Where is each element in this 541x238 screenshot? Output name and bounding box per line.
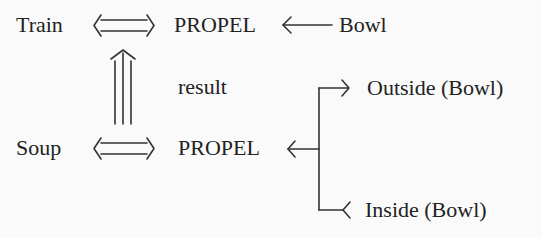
arrow-left-bowl-icon	[283, 17, 332, 33]
node-train: Train	[16, 14, 63, 36]
node-outside-bowl: Outside (Bowl)	[367, 77, 503, 99]
double-arrow-top-icon	[94, 15, 154, 36]
node-soup: Soup	[16, 137, 61, 159]
node-propel-bottom: PROPEL	[178, 137, 260, 159]
branch-bracket-icon	[288, 80, 350, 218]
node-bowl: Bowl	[339, 14, 387, 36]
edge-label-result: result	[178, 76, 227, 98]
cd-diagram: Train PROPEL Bowl result Soup PROPEL Out…	[0, 0, 541, 238]
node-propel-top: PROPEL	[174, 14, 256, 36]
node-inside-bowl: Inside (Bowl)	[365, 199, 487, 221]
double-arrow-bottom-icon	[94, 138, 154, 159]
triple-arrow-up-icon	[111, 50, 135, 124]
